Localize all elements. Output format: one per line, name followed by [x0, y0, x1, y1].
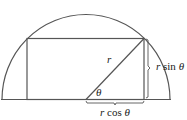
inscribed-rectangle [27, 39, 144, 100]
height-label-fn: sin [160, 60, 178, 72]
semicircle-rectangle-diagram: r θ r sin θ r cos θ [0, 0, 187, 120]
width-label-fn: cos [104, 106, 124, 118]
width-label: r cos θ [100, 106, 130, 118]
radius-line [86, 39, 144, 100]
width-label-theta: θ [124, 106, 130, 118]
height-label: r sin θ [156, 60, 185, 72]
radius-label: r [107, 53, 112, 65]
angle-label: θ [96, 86, 102, 98]
width-bracket [86, 101, 144, 105]
height-bracket [146, 39, 150, 98]
height-label-theta: θ [179, 60, 185, 72]
